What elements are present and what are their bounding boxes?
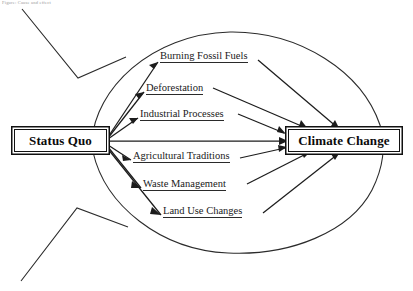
node-status-quo-label: Status Quo (29, 133, 92, 149)
arrow-statusquo-to-burning-fossil-fuels (108, 62, 158, 137)
node-status-quo[interactable]: Status Quo (14, 129, 107, 152)
header-note: Figure: Cause and effect (2, 0, 51, 5)
arrow-burning-fossil-fuels-to-climate-change (258, 60, 340, 130)
cause-label-industrial-processes[interactable]: Industrial Processes (140, 108, 224, 121)
cause-label-burning-fossil-fuels[interactable]: Burning Fossil Fuels (160, 50, 248, 63)
node-climate-change-label: Climate Change (298, 133, 389, 149)
fish-tail-upper (22, 9, 126, 78)
arrow-statusquo-to-climate-change-spine (107, 137, 288, 145)
cause-label-waste-management[interactable]: Waste Management (143, 178, 226, 191)
arrow-waste-management-to-climate-change (247, 152, 310, 184)
arrow-industrial-processes-to-climate-change (238, 114, 286, 134)
arrow-statusquo-to-deforestation (108, 92, 144, 138)
fish-tail-lower (21, 208, 128, 281)
node-climate-change[interactable]: Climate Change (288, 129, 400, 152)
cause-label-agricultural-traditions[interactable]: Agricultural Traditions (133, 150, 230, 163)
arrow-land-use-changes-to-climate-change (263, 152, 340, 213)
arrow-agricultural-traditions-to-climate-change (240, 145, 287, 158)
cause-label-deforestation[interactable]: Deforestation (146, 82, 203, 95)
cause-label-land-use-changes[interactable]: Land Use Changes (163, 205, 242, 218)
diagram-canvas: Figure: Cause and effect (0, 0, 413, 291)
arrow-statusquo-to-industrial-processes (108, 118, 138, 139)
